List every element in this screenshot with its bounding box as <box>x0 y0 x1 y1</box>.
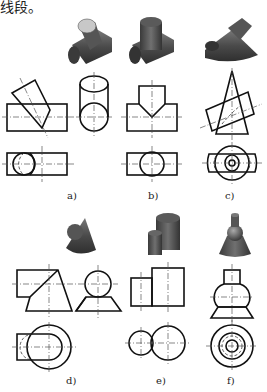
figure-a-side-view <box>76 72 112 136</box>
figure-d-render <box>66 218 96 254</box>
figure-b-render <box>129 17 174 64</box>
figure-e: e) <box>125 213 189 386</box>
figure-d-front-view <box>12 264 80 318</box>
figure-f-top-view <box>206 320 258 372</box>
figure-b-label: b) <box>148 190 158 201</box>
figure-a-label: a) <box>67 190 77 201</box>
figure-a: a) <box>2 19 112 201</box>
figure-f: f) <box>206 213 258 386</box>
figure-c-render <box>205 18 258 61</box>
figure-e-front-view <box>131 262 184 312</box>
figure-a-top-view <box>2 146 75 182</box>
figure-d-label: d) <box>66 375 76 386</box>
figure-d-side-view <box>76 265 121 318</box>
figure-c: c) <box>200 18 262 201</box>
figure-e-render <box>148 213 180 255</box>
figure-d-top-view <box>12 322 76 374</box>
figure-e-label: e) <box>156 375 166 386</box>
figure-f-render <box>219 213 251 257</box>
figure-b-top-view <box>121 146 183 182</box>
figure-f-label: f) <box>227 375 235 386</box>
figure-a-front-view <box>2 78 75 138</box>
drawing-canvas: a) b) <box>0 0 267 392</box>
figure-c-label: c) <box>225 190 235 201</box>
figure-d: d) <box>12 218 121 386</box>
figure-c-top-view <box>202 142 262 185</box>
figure-f-front-view <box>210 264 254 322</box>
figure-b-front-view <box>121 80 183 138</box>
figure-b: b) <box>121 17 183 201</box>
figure-e-top-view <box>125 322 189 364</box>
figure-a-render <box>68 19 112 64</box>
figure-c-front-view <box>200 68 262 140</box>
